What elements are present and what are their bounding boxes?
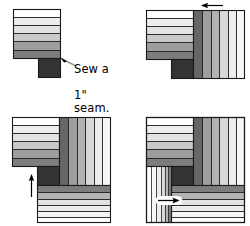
panel-2-step-2 xyxy=(125,0,250,113)
panel-3-artwork xyxy=(0,113,125,226)
arrow-down-icon xyxy=(29,174,34,197)
panel-1-center-square xyxy=(39,59,61,78)
arrow-right-icon xyxy=(156,197,182,205)
panel-3-center-square xyxy=(38,167,60,186)
panel-3-horizontal-strip-set xyxy=(13,118,60,167)
panel-2-horizontal-strip-set xyxy=(147,11,194,60)
panel-1-horizontal-strip-set xyxy=(14,10,61,59)
panel-2-artwork xyxy=(125,0,250,113)
panel-2-vertical-strip-set xyxy=(194,11,245,79)
panel-4-bottom-strip-set xyxy=(172,186,245,223)
panel-3-bottom-strip-set xyxy=(38,186,111,223)
panel-4-step-4 xyxy=(125,113,250,226)
panel-2-center-square xyxy=(172,60,194,79)
panel-1-step-1: Sew a 1" seam. xyxy=(0,0,125,113)
panel-4-vertical-strip-set xyxy=(194,118,245,186)
panel-3-vertical-strip-set xyxy=(60,118,111,186)
panel-4-horizontal-strip-set xyxy=(147,118,194,167)
caption-line-2: 1" seam. xyxy=(74,89,126,115)
panel-4-left-strip-set xyxy=(147,167,172,223)
panel-3-step-3 xyxy=(0,113,125,226)
panel-4-artwork xyxy=(125,113,250,226)
panel-4-center-square xyxy=(172,167,194,186)
caption-line-1: Sew a xyxy=(74,63,126,76)
arrow-left-icon xyxy=(201,3,223,8)
figure-canvas: Sew a 1" seam. xyxy=(0,0,250,226)
